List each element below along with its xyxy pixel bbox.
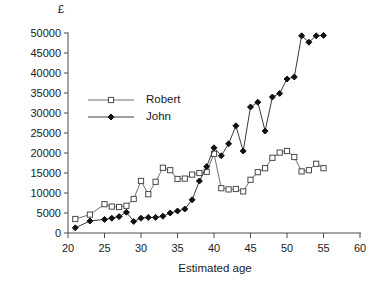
y-tick-label: 45000 bbox=[30, 47, 61, 59]
data-point bbox=[145, 214, 151, 220]
x-tick-label: 25 bbox=[98, 242, 110, 254]
data-point bbox=[233, 123, 239, 129]
data-point bbox=[175, 176, 180, 181]
x-tick-label: 40 bbox=[208, 242, 220, 254]
x-tick-label: 30 bbox=[135, 242, 147, 254]
data-point bbox=[314, 161, 319, 166]
data-point bbox=[73, 216, 78, 221]
y-tick-label: 50000 bbox=[30, 27, 61, 39]
x-tick-label: 55 bbox=[317, 242, 329, 254]
data-point bbox=[109, 204, 114, 209]
data-point bbox=[233, 186, 238, 191]
data-point bbox=[219, 186, 224, 191]
data-point bbox=[255, 170, 260, 175]
data-point bbox=[190, 172, 195, 177]
data-point bbox=[292, 154, 297, 159]
currency-unit-label: £ bbox=[58, 3, 65, 15]
data-point bbox=[146, 192, 151, 197]
data-point bbox=[175, 208, 181, 214]
series-john bbox=[72, 32, 326, 230]
data-point bbox=[255, 99, 261, 105]
data-point bbox=[197, 170, 202, 175]
data-point bbox=[153, 214, 159, 220]
data-point bbox=[240, 148, 246, 154]
data-point bbox=[153, 179, 158, 184]
data-point bbox=[182, 176, 187, 181]
data-point bbox=[102, 202, 107, 207]
data-point bbox=[321, 32, 327, 38]
x-axis-title: Estimated age bbox=[178, 262, 252, 274]
data-point bbox=[321, 166, 326, 171]
data-point bbox=[160, 213, 166, 219]
series-robert bbox=[73, 148, 326, 221]
data-point bbox=[291, 74, 297, 80]
data-point bbox=[262, 128, 268, 134]
data-point bbox=[87, 218, 93, 224]
data-point bbox=[270, 155, 275, 160]
y-axis-ticks: 0500010000150002000025000300003500040000… bbox=[30, 27, 68, 239]
y-tick-label: 10000 bbox=[30, 187, 61, 199]
chart-container: 0500010000150002000025000300003500040000… bbox=[0, 0, 376, 284]
series-line-john bbox=[75, 35, 323, 227]
legend-marker bbox=[108, 114, 114, 120]
data-point bbox=[168, 168, 173, 173]
data-point bbox=[277, 90, 283, 96]
data-point bbox=[284, 76, 290, 82]
data-point bbox=[277, 150, 282, 155]
x-tick-label: 20 bbox=[62, 242, 74, 254]
legend-item-john: John bbox=[88, 110, 171, 122]
data-point bbox=[226, 141, 232, 147]
legend-label: Robert bbox=[146, 93, 181, 105]
y-tick-label: 0 bbox=[55, 227, 61, 239]
data-point bbox=[102, 216, 108, 222]
data-point bbox=[248, 177, 253, 182]
data-point bbox=[116, 214, 122, 220]
x-axis-ticks: 202530354045505560 bbox=[62, 233, 366, 254]
data-point bbox=[109, 215, 115, 221]
data-series-layer bbox=[72, 32, 326, 230]
y-tick-label: 5000 bbox=[37, 207, 61, 219]
legend-marker bbox=[108, 97, 113, 102]
legend-label: John bbox=[146, 110, 171, 122]
line-chart: 0500010000150002000025000300003500040000… bbox=[0, 0, 376, 284]
y-tick-label: 20000 bbox=[30, 147, 61, 159]
y-tick-label: 40000 bbox=[30, 67, 61, 79]
data-point bbox=[196, 178, 202, 184]
data-point bbox=[299, 169, 304, 174]
data-point bbox=[284, 148, 289, 153]
data-point bbox=[241, 189, 246, 194]
legend-item-robert: Robert bbox=[88, 93, 181, 105]
data-point bbox=[131, 196, 136, 201]
chart-legend: RobertJohn bbox=[88, 93, 181, 122]
x-tick-label: 35 bbox=[171, 242, 183, 254]
data-point bbox=[269, 94, 275, 100]
y-tick-label: 35000 bbox=[30, 87, 61, 99]
x-tick-label: 60 bbox=[354, 242, 366, 254]
data-point bbox=[138, 215, 144, 221]
y-tick-label: 15000 bbox=[30, 167, 61, 179]
data-point bbox=[124, 203, 129, 208]
data-point bbox=[248, 104, 254, 110]
data-point bbox=[167, 210, 173, 216]
data-point bbox=[160, 165, 165, 170]
y-tick-label: 25000 bbox=[30, 127, 61, 139]
y-tick-label: 30000 bbox=[30, 107, 61, 119]
data-point bbox=[306, 168, 311, 173]
data-point bbox=[87, 212, 92, 217]
data-point bbox=[138, 178, 143, 183]
data-point bbox=[117, 204, 122, 209]
data-point bbox=[263, 166, 268, 171]
data-point bbox=[72, 225, 78, 231]
x-tick-label: 50 bbox=[281, 242, 293, 254]
data-point bbox=[226, 187, 231, 192]
x-tick-label: 45 bbox=[244, 242, 256, 254]
